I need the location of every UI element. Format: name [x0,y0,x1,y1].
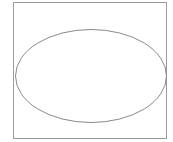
diagram-svg [0,0,173,142]
diagram-canvas [0,0,173,142]
bounding-frame [14,3,167,139]
ellipse-shape [16,30,167,123]
